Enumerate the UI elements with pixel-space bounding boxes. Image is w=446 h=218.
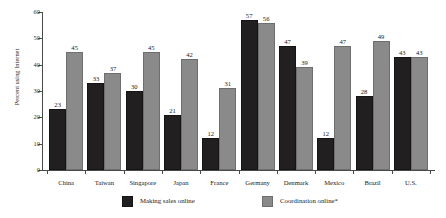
bar: 23 [49, 109, 66, 170]
bar-group: 4343 [394, 12, 428, 170]
legend-label: Making sales online [140, 196, 195, 206]
y-axis-title: Percent using Internet [10, 0, 24, 162]
y-tick-label: 20 [34, 112, 40, 121]
bar-value-label: 12 [208, 130, 215, 138]
x-tick-mark [315, 170, 316, 174]
bar-value-label: 31 [225, 80, 232, 88]
bar-value-label: 45 [148, 44, 155, 52]
category-label: Singapore [129, 178, 156, 187]
bar-value-label: 39 [301, 59, 308, 67]
y-tick-label: 60 [34, 7, 40, 16]
category-label: Denmark [284, 178, 309, 187]
bar: 39 [296, 67, 313, 170]
x-tick-mark [353, 170, 354, 174]
bar-group: 4739 [279, 12, 313, 170]
bar: 42 [181, 59, 198, 170]
bar-value-label: 47 [339, 38, 346, 46]
bar: 56 [258, 23, 275, 170]
bar: 45 [66, 52, 83, 171]
x-tick-mark [162, 170, 163, 174]
bar-value-label: 43 [416, 49, 423, 57]
category-label: Brazil [364, 178, 380, 187]
category-label: U.S. [405, 178, 417, 187]
legend-item-coordination-online: Coordination online* [262, 193, 338, 209]
bar-chart: Percent using Internet 0102030405060 234… [0, 0, 446, 218]
x-tick-mark [47, 170, 48, 174]
legend-item-making-sales-online: Making sales online [122, 193, 195, 209]
y-tick-label: 10 [34, 139, 40, 148]
bar-group: 1247 [317, 12, 351, 170]
bar: 12 [317, 138, 334, 170]
x-tick-mark [392, 170, 393, 174]
category-label: France [210, 178, 228, 187]
bar: 43 [411, 57, 428, 170]
bar-group: 5756 [241, 12, 275, 170]
x-tick-mark [277, 170, 278, 174]
bar: 49 [373, 41, 390, 170]
bar-group: 2142 [164, 12, 198, 170]
bar: 30 [126, 91, 143, 170]
plot-area: 0102030405060 23453337304521421231575647… [42, 12, 435, 170]
bar: 31 [219, 88, 236, 170]
y-axis-line [42, 12, 43, 170]
y-tick-label: 0 [37, 165, 40, 174]
bar: 12 [202, 138, 219, 170]
category-label: Taiwan [95, 178, 114, 187]
bar: 37 [104, 73, 121, 170]
chart-legend: Making sales online Coordination online* [0, 193, 446, 213]
bar: 43 [394, 57, 411, 170]
bar-value-label: 37 [110, 65, 117, 73]
bar-group: 2345 [49, 12, 83, 170]
category-label: Japan [174, 178, 189, 187]
bar-value-label: 33 [93, 75, 100, 83]
bar-group: 2849 [356, 12, 390, 170]
y-tick-label: 50 [34, 33, 40, 42]
y-tick-label: 30 [34, 86, 40, 95]
bar: 33 [87, 83, 104, 170]
category-label: China [58, 178, 74, 187]
category-label: Mexico [324, 178, 344, 187]
bar-value-label: 21 [169, 107, 176, 115]
bar: 45 [143, 52, 160, 171]
x-tick-mark [430, 170, 431, 174]
bar-group: 1231 [202, 12, 236, 170]
bar-value-label: 47 [284, 38, 291, 46]
x-tick-mark [124, 170, 125, 174]
dark-swatch-icon [122, 196, 133, 207]
bar-value-label: 28 [361, 88, 368, 96]
bar-group: 3045 [126, 12, 160, 170]
legend-label: Coordination online* [280, 196, 338, 206]
gray-swatch-icon [262, 196, 273, 207]
x-tick-mark [200, 170, 201, 174]
bar: 28 [356, 96, 373, 170]
bar-value-label: 56 [263, 15, 270, 23]
bar-value-label: 57 [246, 12, 253, 20]
category-label: Germany [245, 178, 270, 187]
bar-group: 3337 [87, 12, 121, 170]
y-tick-label: 40 [34, 60, 40, 69]
bar: 21 [164, 115, 181, 170]
bar: 57 [241, 20, 258, 170]
bar-value-label: 43 [399, 49, 406, 57]
bar-value-label: 12 [322, 130, 329, 138]
x-tick-mark [239, 170, 240, 174]
bar-value-label: 42 [186, 51, 193, 59]
x-tick-mark [85, 170, 86, 174]
bar-value-label: 30 [131, 83, 138, 91]
bar-value-label: 49 [378, 33, 385, 41]
bar-value-label: 23 [54, 101, 61, 109]
bar: 47 [279, 46, 296, 170]
bar-value-label: 45 [71, 44, 78, 52]
bar: 47 [334, 46, 351, 170]
